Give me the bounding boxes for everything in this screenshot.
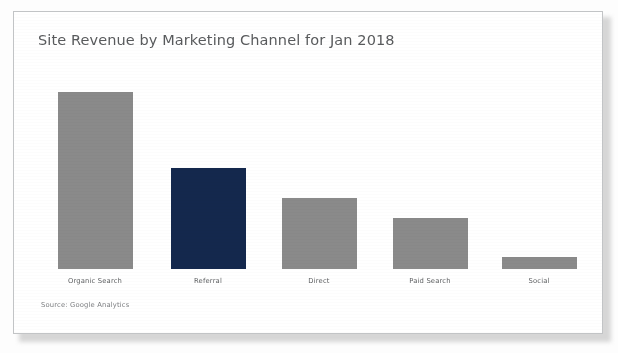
bar-referral[interactable]	[171, 168, 246, 269]
source-note: Source: Google Analytics	[41, 301, 129, 309]
bar-organic-search[interactable]	[58, 92, 133, 269]
bar-column-paid-search[interactable]: Paid Search	[381, 12, 479, 335]
bar-column-social[interactable]: Social	[490, 12, 588, 335]
bar-column-referral[interactable]: Referral	[159, 12, 257, 335]
bar-social[interactable]	[502, 257, 577, 269]
bar-label-referral: Referral	[159, 277, 257, 285]
chart-card: Site Revenue by Marketing Channel for Ja…	[13, 11, 603, 334]
bar-label-social: Social	[490, 277, 588, 285]
bar-label-direct: Direct	[270, 277, 368, 285]
bar-paid-search[interactable]	[393, 218, 468, 269]
page-root: Site Revenue by Marketing Channel for Ja…	[0, 0, 618, 353]
bar-label-organic-search: Organic Search	[46, 277, 144, 285]
bar-column-direct[interactable]: Direct	[270, 12, 368, 335]
bar-direct[interactable]	[282, 198, 357, 269]
bar-chart-plot: Organic Search Referral Direct Paid Sear…	[14, 12, 604, 335]
bar-label-paid-search: Paid Search	[381, 277, 479, 285]
bar-column-organic-search[interactable]: Organic Search	[46, 12, 144, 335]
